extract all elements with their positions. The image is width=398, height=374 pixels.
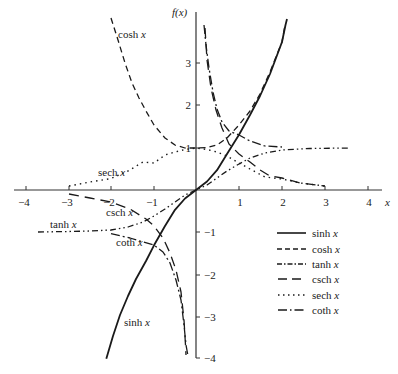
annotation-csch: csch x (106, 206, 133, 218)
x-tick-label: −3 (61, 196, 73, 208)
coth-curve-negative (111, 234, 188, 356)
annotation-coth: coth x (116, 236, 143, 248)
y-ticks (196, 63, 200, 358)
legend-label: cosh x (312, 243, 340, 255)
sinh-curve (106, 19, 287, 359)
x-tick-labels: −4 −3 −2 −1 1 2 3 4 (18, 196, 372, 208)
x-axis-label: x (384, 196, 390, 208)
csch-curve-negative (69, 194, 186, 355)
y-tick-label: −3 (204, 311, 216, 323)
legend-item-csch: csch x (278, 273, 339, 285)
x-tick-label: −4 (18, 196, 30, 208)
y-axis-label: f(x) (172, 6, 188, 19)
y-tick-label: −1 (204, 226, 216, 238)
y-tick-label: 2 (186, 99, 192, 111)
x-tick-label: 4 (366, 196, 372, 208)
legend-item-coth: coth x (278, 304, 339, 316)
legend-label: tanh x (312, 258, 339, 270)
legend-label: coth x (312, 304, 339, 316)
legend-item-sinh: sinh x (277, 227, 338, 239)
annotation-sech: sech x (98, 166, 125, 178)
legend: sinh x cosh x tanh x csch x sech x coth … (277, 227, 340, 316)
legend-label: sinh x (312, 227, 338, 239)
legend-item-tanh: tanh x (277, 258, 339, 270)
legend-label: csch x (312, 273, 339, 285)
y-tick-label: −4 (204, 352, 216, 364)
legend-label: sech x (312, 289, 339, 301)
legend-item-cosh: cosh x (277, 243, 340, 255)
hyperbolic-functions-chart: −4 −3 −2 −1 1 2 3 4 x 3 2 1 −1 −2 −3 −4 … (0, 0, 398, 374)
legend-item-sech: sech x (278, 289, 339, 301)
x-tick-label: −1 (146, 196, 158, 208)
y-tick-labels: 3 2 1 (186, 57, 192, 154)
annotation-tanh: tanh x (50, 218, 77, 230)
y-tick-label: 3 (186, 57, 192, 69)
annotation-cosh: cosh x (118, 28, 146, 40)
x-tick-label: 2 (280, 196, 286, 208)
x-tick-label: 1 (237, 196, 243, 208)
curves (38, 18, 350, 359)
csch-curve-positive (205, 28, 325, 186)
x-tick-label: 3 (323, 196, 329, 208)
y-tick-label: −2 (204, 269, 216, 281)
y-tick-labels-negative: −1 −2 −3 −4 (204, 226, 216, 364)
annotation-sinh: sinh x (124, 316, 150, 328)
